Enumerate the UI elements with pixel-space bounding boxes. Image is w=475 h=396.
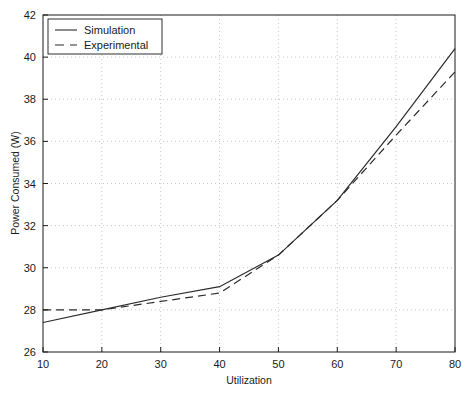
- legend-label-simulation: Simulation: [84, 24, 135, 36]
- x-tick-label: 50: [272, 358, 284, 370]
- x-tick-label: 70: [390, 358, 402, 370]
- y-tick-label: 26: [24, 346, 36, 358]
- y-tick-label: 28: [24, 304, 36, 316]
- y-axis-label: Power Consumed (W): [9, 131, 21, 234]
- x-tick-label: 60: [331, 358, 343, 370]
- legend-label-experimental: Experimental: [84, 39, 148, 51]
- x-axis-label: Utilization: [226, 374, 272, 386]
- y-tick-label: 30: [24, 262, 36, 274]
- x-tick-label: 80: [449, 358, 461, 370]
- y-axis-tick-labels: 262830323436384042: [24, 9, 36, 358]
- x-tick-label: 40: [213, 358, 225, 370]
- x-tick-label: 10: [37, 358, 49, 370]
- y-tick-label: 40: [24, 51, 36, 63]
- power-consumption-chart: 1020304050607080 262830323436384042 Util…: [0, 0, 475, 396]
- y-tick-label: 42: [24, 9, 36, 21]
- y-tick-label: 32: [24, 220, 36, 232]
- chart-background: [0, 0, 475, 396]
- x-tick-label: 30: [155, 358, 167, 370]
- legend: Simulation Experimental: [48, 19, 162, 54]
- y-tick-label: 38: [24, 93, 36, 105]
- x-tick-label: 20: [96, 358, 108, 370]
- y-tick-label: 34: [24, 178, 36, 190]
- y-tick-label: 36: [24, 135, 36, 147]
